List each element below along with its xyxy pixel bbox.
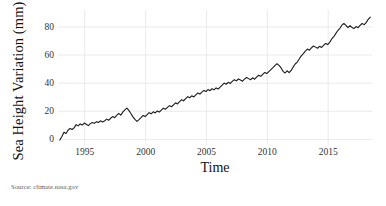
plot-svg [58,10,372,145]
x-axis-title: Time [58,160,372,176]
x-axis-tick-label: 2015 [305,147,351,157]
source-note: Source: climate.nasa.gov [11,183,78,190]
data-line-sea-height-variation [60,17,370,140]
y-axis-tick-label: 60 [28,50,54,60]
x-axis-tick-label: 1995 [62,147,108,157]
grid-lines [58,10,372,145]
x-axis-tick-label: 2000 [123,147,169,157]
y-axis-tick-label: 80 [28,22,54,32]
y-axis-tick-label: 20 [28,106,54,116]
y-axis-tick-label: 40 [28,78,54,88]
x-axis-tick-label: 2010 [244,147,290,157]
x-axis-tick-label: 2005 [183,147,229,157]
plot-area [58,10,372,145]
x-axis-tick-labels: 19952000200520102015 [58,147,372,161]
y-axis-tick-labels: 020406080 [24,0,54,206]
y-axis-tick-label: 0 [28,134,54,144]
data-series-group [60,17,370,140]
sea-level-chart-figure: Sea Height Variation (mm) 020406080 1995… [0,0,386,206]
